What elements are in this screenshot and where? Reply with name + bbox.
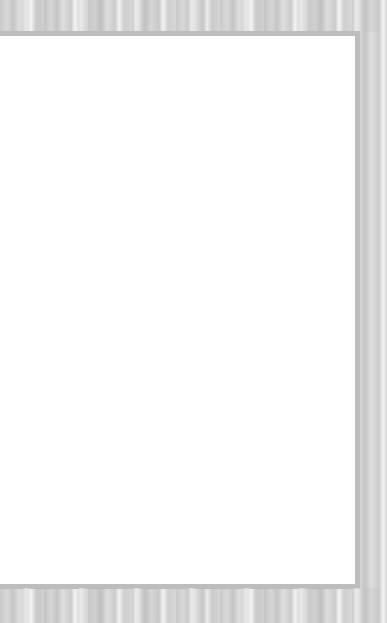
blank-card — [0, 36, 355, 584]
background-texture-top — [0, 0, 387, 32]
background-texture-bottom — [0, 588, 387, 623]
